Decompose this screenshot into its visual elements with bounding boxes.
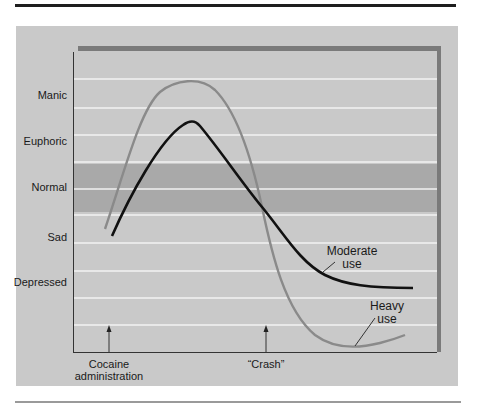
legend-moderate-use: Moderate use xyxy=(325,245,379,271)
bottom-rule xyxy=(15,401,461,403)
frame-top-bar xyxy=(78,46,441,51)
legend-moderate-line2: use xyxy=(325,258,379,271)
y-label-euphoric: Euphoric xyxy=(3,135,67,147)
x-label-cocaine-line2: administration xyxy=(68,370,150,382)
legend-heavy-use: Heavy use xyxy=(366,300,408,326)
y-label-manic: Manic xyxy=(3,89,67,101)
crash-arrowhead-icon xyxy=(264,325,269,332)
cocaine-arrowhead-icon xyxy=(107,325,112,332)
legend-heavy-line2: use xyxy=(366,313,408,326)
heavy-use-curve xyxy=(105,81,405,347)
y-label-depressed: Depressed xyxy=(3,276,67,288)
x-label-cocaine-administration: Cocaine administration xyxy=(68,358,150,382)
x-label-crash: “Crash” xyxy=(236,358,296,370)
y-label-sad: Sad xyxy=(3,231,67,243)
frame-right-bar xyxy=(437,46,441,352)
x-label-cocaine-line1: Cocaine xyxy=(68,358,150,370)
y-label-normal: Normal xyxy=(3,181,67,193)
chart-plot xyxy=(0,0,477,405)
normal-band xyxy=(74,164,437,212)
